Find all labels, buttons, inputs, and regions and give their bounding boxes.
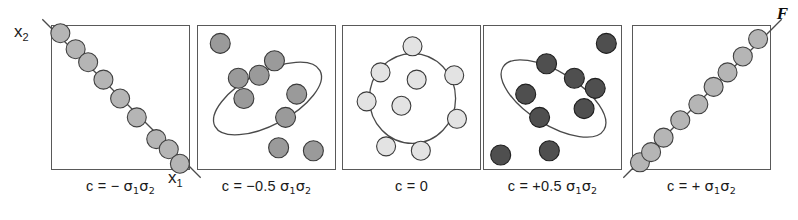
caption-sigma: σ1σ2 xyxy=(705,178,736,194)
caption-sign: + xyxy=(692,178,701,194)
scatter-panel-panel-zero xyxy=(342,25,481,170)
data-point xyxy=(539,141,559,161)
data-point xyxy=(392,96,411,115)
scatter-plot-panel-neg-half xyxy=(184,12,351,185)
data-point xyxy=(447,109,466,128)
data-point xyxy=(733,47,752,66)
panel-caption-panel-pos-full: c = + σ1σ2 xyxy=(616,178,787,194)
scatter-panel-panel-pos-full xyxy=(632,25,771,170)
data-point xyxy=(94,70,113,89)
data-point xyxy=(269,138,289,158)
caption-lhs: c = xyxy=(395,178,415,194)
data-point xyxy=(704,77,723,96)
data-point xyxy=(585,78,605,98)
data-point xyxy=(516,84,536,104)
caption-sign: + xyxy=(532,178,541,194)
data-point xyxy=(411,141,430,160)
data-point xyxy=(671,111,690,130)
data-point xyxy=(596,33,616,53)
data-point xyxy=(276,107,296,127)
scatter-panel-panel-pos-half xyxy=(483,25,622,170)
data-point xyxy=(718,63,737,82)
data-point xyxy=(564,68,584,88)
data-point xyxy=(537,54,557,74)
scatter-plot-panel-pos-full xyxy=(619,12,786,185)
y-axis-label-text: x xyxy=(14,22,23,41)
panel-caption-panel-pos-half: c = +0.5 σ1σ2 xyxy=(467,178,638,194)
data-point xyxy=(111,89,130,108)
caption-lhs: c = xyxy=(222,178,242,194)
data-point xyxy=(264,51,284,71)
caption-magnitude: 0.5 xyxy=(541,178,562,194)
y-axis-label: x2 xyxy=(14,22,29,42)
caption-sigma: σ1σ2 xyxy=(280,178,311,194)
caption-lhs: c = xyxy=(86,178,106,194)
data-point xyxy=(654,128,673,147)
scatter-plot-panel-pos-half xyxy=(470,12,637,185)
data-point xyxy=(234,89,254,109)
data-point xyxy=(210,33,230,53)
data-point xyxy=(79,53,98,72)
data-point xyxy=(407,70,426,89)
data-point xyxy=(491,145,511,165)
data-point xyxy=(749,30,768,49)
data-point xyxy=(303,141,323,161)
data-point xyxy=(403,37,422,56)
data-point xyxy=(371,63,390,82)
data-point xyxy=(530,107,550,127)
scatter-panel-panel-neg-half xyxy=(197,25,336,170)
data-point xyxy=(51,24,70,43)
scatter-panel-panel-neg-full xyxy=(51,25,190,170)
y-axis-label-subscript: 2 xyxy=(23,31,29,43)
caption-sign: − xyxy=(246,178,255,194)
data-point xyxy=(357,92,376,111)
data-point xyxy=(287,84,307,104)
scatter-plot-panel-neg-full xyxy=(38,12,205,185)
caption-sigma: σ1σ2 xyxy=(124,178,155,194)
data-point xyxy=(377,137,396,156)
caption-sigma: σ1σ2 xyxy=(566,178,597,194)
data-point xyxy=(689,95,708,114)
caption-lhs: c = xyxy=(508,178,528,194)
caption-magnitude: 0.5 xyxy=(255,178,276,194)
data-point xyxy=(574,99,594,119)
data-point xyxy=(445,66,464,85)
caption-sign: − xyxy=(111,178,120,194)
figure-root: x2 x1 F c = − σ1σ2c = −0.5 σ1σ2c = 0c = … xyxy=(0,0,798,220)
data-point xyxy=(228,68,248,88)
data-point xyxy=(249,65,269,85)
data-point xyxy=(127,108,146,127)
caption-lhs: c = xyxy=(667,178,687,194)
caption-magnitude: 0 xyxy=(420,178,428,194)
